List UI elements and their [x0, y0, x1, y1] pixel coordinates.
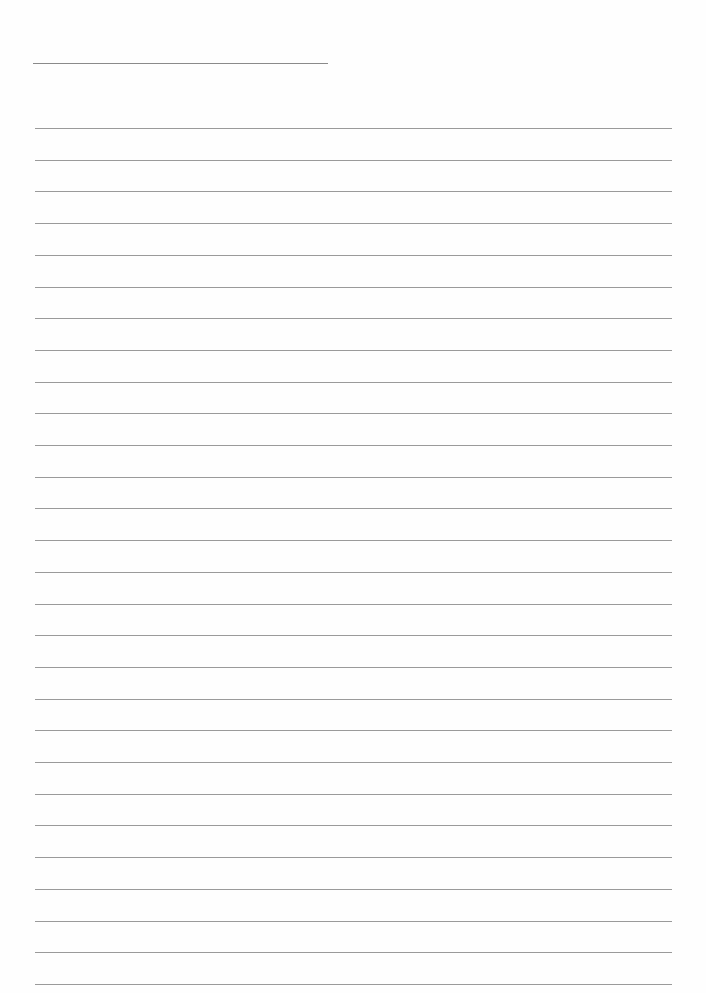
ruled-line	[35, 952, 672, 953]
ruled-line	[35, 160, 672, 161]
ruled-line	[35, 318, 672, 319]
ruled-line	[35, 889, 672, 890]
ruled-line	[35, 699, 672, 700]
ruled-line	[35, 413, 672, 414]
ruled-line	[35, 445, 672, 446]
ruled-line	[35, 255, 672, 256]
ruled-line	[35, 762, 672, 763]
ruled-line	[35, 572, 672, 573]
ruled-line	[35, 667, 672, 668]
ruled-line	[35, 287, 672, 288]
ruled-line	[35, 604, 672, 605]
ruled-line	[35, 477, 672, 478]
ruled-line	[35, 350, 672, 351]
ruled-line	[35, 984, 672, 985]
ruled-line	[35, 635, 672, 636]
header-rule-line	[33, 63, 328, 64]
ruled-line	[35, 540, 672, 541]
ruled-line	[35, 857, 672, 858]
ruled-line	[35, 921, 672, 922]
ruled-line	[35, 794, 672, 795]
lined-paper-page	[0, 0, 706, 993]
ruled-line	[35, 730, 672, 731]
ruled-line	[35, 223, 672, 224]
ruled-line	[35, 128, 672, 129]
ruled-line	[35, 825, 672, 826]
ruled-line	[35, 382, 672, 383]
ruled-line	[35, 508, 672, 509]
ruled-line	[35, 191, 672, 192]
